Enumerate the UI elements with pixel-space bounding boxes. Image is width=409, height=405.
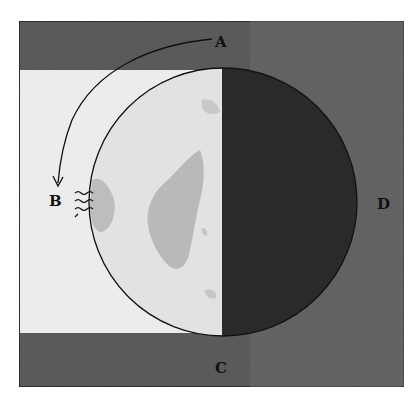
label-d: D (377, 197, 390, 212)
label-b: B (49, 194, 62, 209)
label-a: A (215, 35, 227, 50)
moon-phase-diagram: A B C D (0, 0, 409, 405)
label-c: C (215, 361, 227, 376)
